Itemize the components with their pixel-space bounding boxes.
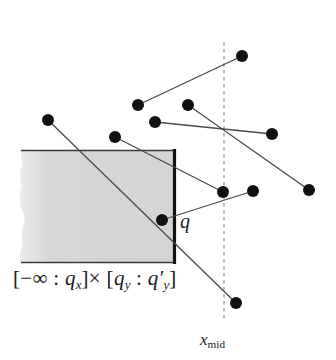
node-mid-center	[149, 116, 161, 128]
region-colon-2: :	[130, 266, 147, 290]
query-region-group	[20, 149, 175, 264]
node-center	[217, 186, 229, 198]
edge-upper-mid-to-top-right	[138, 56, 242, 105]
region-qy-prime: q′	[148, 266, 164, 290]
region-label: [−∞ : qx]× [qy : q′y]	[13, 266, 177, 293]
diagram-canvas	[0, 0, 336, 360]
query-region-fill	[20, 150, 175, 263]
node-upper-left	[42, 114, 54, 126]
x-mid-subscript: mid	[208, 338, 225, 350]
region-colon-1: :	[48, 266, 65, 290]
region-bracket-open-2: [	[107, 266, 114, 290]
node-top-right	[236, 50, 248, 62]
edge-mid-center-to-right-upper	[155, 122, 272, 134]
x-mid-symbol: x	[200, 330, 208, 349]
region-qx: q	[65, 266, 76, 290]
node-bottom-right	[230, 297, 242, 309]
node-left-inner	[109, 131, 121, 143]
region-neg-infinity: −∞	[20, 266, 47, 290]
query-point-label: q	[180, 210, 190, 233]
node-center-right	[247, 185, 259, 197]
region-bracket-close-2: ]	[169, 266, 176, 290]
region-times-sign: ×	[89, 266, 101, 290]
x-mid-label: xmid	[200, 330, 225, 350]
edge-mid-upper-to-far-right	[188, 105, 309, 190]
figure-root: [−∞ : qx]× [qy : q′y] q xmid	[0, 0, 336, 360]
node-far-right	[303, 184, 315, 196]
node-right-upper	[266, 128, 278, 140]
node-query-point-q	[156, 214, 168, 226]
region-qy: q	[114, 266, 125, 290]
node-upper-mid	[132, 99, 144, 111]
region-bracket-close-1: ]	[82, 266, 89, 290]
node-mid-upper	[182, 99, 194, 111]
